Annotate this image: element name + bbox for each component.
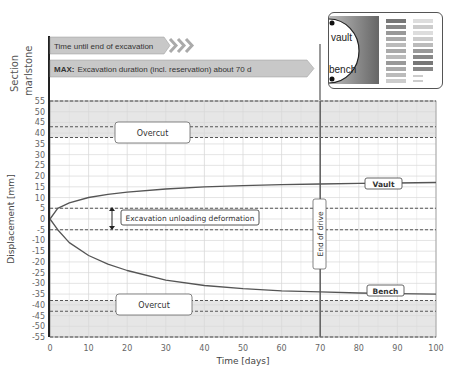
- end-of-drive-label: End of drive: [313, 199, 326, 269]
- inset-vault-label: vault: [331, 32, 352, 43]
- y-tick-label: -45: [32, 312, 45, 321]
- series-vault-line: [50, 183, 436, 220]
- svg-text:Bench: Bench: [373, 287, 399, 296]
- excavation-time-label: Time until end of excavation: [54, 42, 153, 51]
- reference-lines: [50, 101, 436, 337]
- vault-series-label: Vault: [365, 178, 402, 189]
- x-tick-label: 10: [84, 344, 94, 353]
- overcut-top-label: Overcut: [115, 122, 190, 143]
- x-tick-label: 20: [122, 344, 132, 353]
- y-tick-label: -50: [32, 322, 45, 331]
- y-tick-label: -5: [37, 226, 45, 235]
- y-tick-label: 20: [35, 172, 45, 181]
- overcut-band: [50, 101, 436, 137]
- bench-series-label: Bench: [367, 285, 404, 296]
- data-series: [50, 183, 436, 295]
- y-tick-label: 25: [35, 161, 45, 170]
- x-axis-title: Time [days]: [215, 356, 269, 366]
- y-axis-title: Displacement [mm]: [6, 174, 16, 263]
- max-duration-label: Excavation duration (incl. reservation) …: [77, 65, 251, 74]
- series-bench-line: [50, 219, 436, 294]
- overcut-bottom-label: Overcut: [116, 294, 192, 315]
- grid-lines: [50, 101, 436, 337]
- tick-labels: 5550454035302520151050-5-10-15-20-25-30-…: [32, 97, 444, 353]
- svg-text:End of drive: End of drive: [316, 211, 325, 257]
- x-tick-label: 40: [199, 344, 209, 353]
- y-tick-label: -35: [32, 290, 45, 299]
- svg-text:Overcut: Overcut: [137, 129, 169, 138]
- overcut-bands: [50, 101, 436, 337]
- y-tick-label: 50: [35, 108, 45, 117]
- vault-point-icon: [330, 21, 335, 26]
- y-tick-label: -30: [32, 279, 45, 288]
- x-tick-label: 50: [238, 344, 248, 353]
- y-tick-label: -40: [32, 301, 45, 310]
- x-tick-label: 70: [315, 344, 325, 353]
- x-tick-label: 90: [392, 344, 402, 353]
- y-tick-label: 40: [35, 129, 45, 138]
- max-duration-text: MAX:Excavation duration (incl. reservati…: [54, 65, 251, 74]
- y-tick-label: -25: [32, 269, 45, 278]
- y-tick-label: -20: [32, 258, 45, 267]
- y-tick-label: 5: [40, 204, 45, 213]
- y-tick-label: 0: [40, 215, 45, 224]
- svg-text:Overcut: Overcut: [138, 301, 170, 310]
- y-tick-label: 45: [35, 118, 45, 127]
- svg-text:Vault: Vault: [373, 180, 395, 189]
- bench-point-icon: [330, 77, 335, 82]
- svg-text:Excavation unloading deformati: Excavation unloading deformation: [126, 214, 255, 223]
- cross-section-inset: vault bench: [328, 12, 443, 89]
- y-tick-label: 15: [35, 183, 45, 192]
- y-tick-label: 10: [35, 194, 45, 203]
- overcut-band: [50, 301, 436, 337]
- x-tick-label: 30: [161, 344, 171, 353]
- x-tick-label: 80: [354, 344, 364, 353]
- y-tick-label: 30: [35, 151, 45, 160]
- y-tick-label: -55: [32, 333, 45, 342]
- y-tick-label: -10: [32, 236, 45, 245]
- x-tick-label: 60: [277, 344, 287, 353]
- chevron-arrows-icon: [170, 39, 192, 52]
- y-tick-label: 35: [35, 140, 45, 149]
- y-tick-label: -15: [32, 247, 45, 256]
- inset-bench-label: bench: [329, 64, 356, 75]
- max-prefix: MAX:: [54, 65, 74, 74]
- x-tick-label: 100: [428, 344, 443, 353]
- unloading-deformation-label: Excavation unloading deformation: [109, 207, 259, 230]
- x-tick-label: 0: [47, 344, 52, 353]
- color-scale-legend: [386, 19, 433, 83]
